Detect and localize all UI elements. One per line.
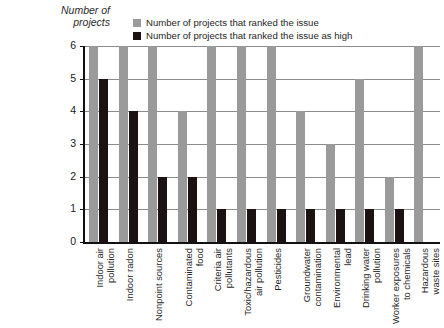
y-axis-tick: [80, 242, 85, 243]
legend-swatch-icon: [133, 19, 141, 27]
bar-group[interactable]: [296, 46, 315, 242]
bar-chart: Number of projects Number of projects th…: [0, 0, 444, 328]
legend-item-high[interactable]: Number of projects that ranked the issue…: [133, 30, 352, 41]
y-axis-title-line2: projects: [18, 16, 110, 28]
x-axis-label: Environmentallead: [332, 248, 353, 308]
y-axis-title-line1: Number of: [61, 4, 110, 16]
bar-group[interactable]: [89, 46, 108, 242]
bar-group[interactable]: [237, 46, 256, 242]
bar-total[interactable]: [385, 177, 394, 242]
x-axis-label-line: Nonpoint sources: [154, 248, 165, 321]
x-axis-labels: Indoor airpollutionIndoor radonNonpoint …: [83, 248, 438, 328]
x-axis-label: Criteria airpollutants: [213, 248, 234, 291]
bar-high[interactable]: [247, 209, 256, 242]
bar-high[interactable]: [158, 177, 167, 242]
x-axis-label-line: waste sites: [431, 248, 442, 294]
legend-swatch-icon: [133, 32, 141, 40]
bar-total[interactable]: [89, 46, 98, 242]
bar-total[interactable]: [326, 144, 335, 242]
bar-group[interactable]: [178, 46, 197, 242]
x-axis-label: Worker exposuresto chemicals: [391, 248, 412, 324]
bars-layer: [85, 46, 440, 242]
bar-group[interactable]: [148, 46, 167, 242]
bar-total[interactable]: [207, 46, 216, 242]
y-axis-title: Number of projects: [18, 4, 110, 28]
bar-high[interactable]: [277, 209, 286, 242]
x-axis-label-line: Indoor radon: [125, 248, 136, 301]
x-axis-label: Indoor airpollution: [95, 248, 116, 288]
bar-high[interactable]: [336, 209, 345, 242]
x-axis-label-line: Environmental: [332, 248, 343, 308]
x-axis-label: Nonpoint sources: [154, 248, 165, 321]
y-axis-tick-label: 2: [56, 170, 76, 182]
legend-label: Number of projects that ranked the issue…: [146, 31, 352, 41]
plot-area: 0123456: [83, 46, 440, 244]
bar-group[interactable]: [267, 46, 286, 242]
x-axis-label-line: pollution: [106, 248, 117, 288]
bar-high[interactable]: [306, 209, 315, 242]
bar-total[interactable]: [267, 46, 276, 242]
bar-group[interactable]: [414, 46, 433, 242]
x-axis-label: Groundwatercontamination: [302, 248, 323, 306]
bar-total[interactable]: [414, 46, 423, 242]
bar-group[interactable]: [119, 46, 138, 242]
y-axis-tick-label: 4: [56, 104, 76, 116]
x-axis-label-line: air pollution: [253, 248, 264, 316]
bar-group[interactable]: [207, 46, 226, 242]
bar-total[interactable]: [178, 111, 187, 242]
bar-total[interactable]: [119, 46, 128, 242]
y-axis-tick-label: 6: [56, 39, 76, 51]
x-axis-label-line: Toxic/hazardous: [243, 248, 254, 316]
x-axis-label-line: Indoor air: [95, 248, 106, 288]
bar-total[interactable]: [355, 79, 364, 242]
y-axis-tick-label: 0: [56, 235, 76, 247]
x-axis-label: Toxic/hazardousair pollution: [243, 248, 264, 316]
x-axis-label-line: to chemicals: [401, 248, 412, 324]
y-axis-tick-label: 5: [56, 72, 76, 84]
bar-group[interactable]: [385, 46, 404, 242]
bar-group[interactable]: [326, 46, 345, 242]
bar-total[interactable]: [237, 46, 246, 242]
x-axis-label: Hazardouswaste sites: [420, 248, 441, 294]
bar-high[interactable]: [99, 79, 108, 242]
x-axis-label-line: food: [194, 248, 205, 306]
x-axis-label-line: Contaminated: [184, 248, 195, 306]
bar-total[interactable]: [296, 111, 305, 242]
legend-label: Number of projects that ranked the issue: [146, 18, 319, 28]
bar-group[interactable]: [355, 46, 374, 242]
bar-high[interactable]: [217, 209, 226, 242]
y-axis-tick-label: 3: [56, 137, 76, 149]
x-axis-label-line: contamination: [313, 248, 324, 306]
bar-total[interactable]: [148, 46, 157, 242]
bar-high[interactable]: [129, 111, 138, 242]
x-axis-label: Contaminatedfood: [184, 248, 205, 306]
x-axis-label-line: lead: [342, 248, 353, 308]
x-axis-label-line: pollution: [372, 248, 383, 308]
x-axis-label-line: pollutants: [224, 248, 235, 291]
y-axis-tick-label: 1: [56, 202, 76, 214]
chart-legend: Number of projects that ranked the issue…: [133, 17, 352, 43]
x-axis-label: Drinking waterpollution: [361, 248, 382, 308]
x-axis-label-line: Worker exposures: [391, 248, 402, 324]
bar-high[interactable]: [365, 209, 374, 242]
legend-item-total[interactable]: Number of projects that ranked the issue: [133, 17, 352, 28]
x-axis-label-line: Pesticides: [273, 248, 284, 291]
bar-high[interactable]: [188, 177, 197, 242]
x-axis-label-line: Groundwater: [302, 248, 313, 306]
x-axis-label: Indoor radon: [125, 248, 136, 301]
x-axis-label: Pesticides: [273, 248, 284, 291]
bar-high[interactable]: [395, 209, 404, 242]
